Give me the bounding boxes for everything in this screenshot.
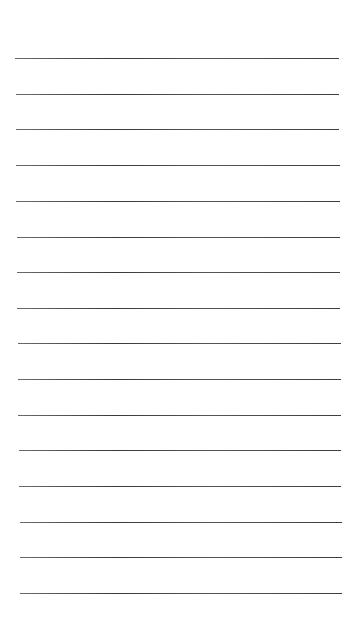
ruled-line xyxy=(20,522,342,523)
ruled-line xyxy=(19,450,341,451)
ruled-line xyxy=(16,165,340,166)
ruled-line xyxy=(20,593,342,594)
ruled-line xyxy=(17,237,340,238)
ruled-line xyxy=(19,486,341,487)
ruled-line xyxy=(18,343,341,344)
lined-paper xyxy=(0,0,357,627)
ruled-line xyxy=(16,201,340,202)
ruled-line xyxy=(16,94,339,95)
ruled-line xyxy=(18,415,341,416)
ruled-line xyxy=(15,58,339,59)
ruled-line xyxy=(20,557,342,558)
ruled-line xyxy=(17,308,340,309)
ruled-line xyxy=(18,379,341,380)
ruled-line xyxy=(16,129,339,130)
ruled-line xyxy=(17,272,340,273)
